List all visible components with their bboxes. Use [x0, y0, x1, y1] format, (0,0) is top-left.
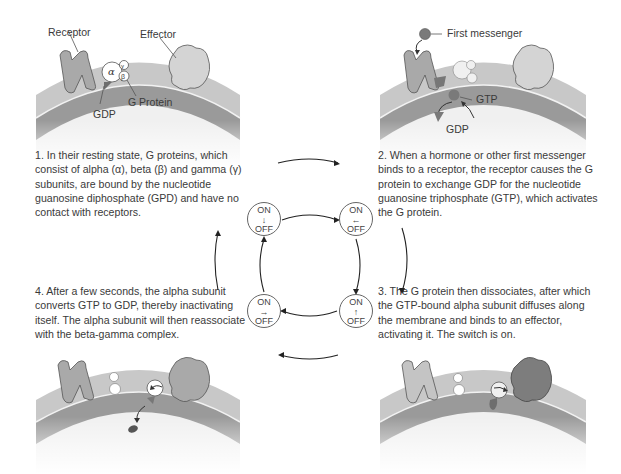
- switch-off-label: OFF: [248, 317, 280, 327]
- caption-step-4: 4. After a few seconds, the alpha subuni…: [35, 284, 250, 341]
- panel-1-resting-state: α γ β Receptor Effector G Protein GDP: [0, 0, 310, 170]
- gamma-label: γ: [121, 63, 124, 69]
- receptor-label: Receptor: [48, 26, 91, 38]
- panel-2-illustration: First messenger GTP GDP: [310, 0, 621, 170]
- effector-icon: [169, 357, 210, 401]
- switch-off-label: OFF: [340, 317, 372, 327]
- switch-off-label: OFF: [248, 225, 280, 235]
- panel-3-illustration: [310, 340, 621, 474]
- caption-step-2: 2. When a hormone or other first messeng…: [378, 148, 598, 219]
- switch-node-top-left: ON ↓ OFF: [247, 202, 281, 236]
- g-protein-label: G Protein: [128, 96, 173, 108]
- beta-label: β: [121, 73, 125, 81]
- gdp-label: GDP: [446, 123, 469, 135]
- effector-icon: [513, 45, 554, 90]
- effector-active-icon: [511, 357, 552, 401]
- switch-cycle: ON ↓ OFF ON ← OFF ON ↑ OFF ON → OFF: [250, 205, 370, 325]
- panel-1-illustration: α γ β Receptor Effector G Protein GDP: [0, 0, 310, 170]
- arrow-4-to-1: [215, 230, 221, 290]
- caption-step-1: 1. In their resting state, G proteins, w…: [35, 148, 245, 219]
- caption-step-3: 3. The G protein then dissociates, after…: [378, 284, 598, 341]
- gdp-label: GDP: [93, 108, 116, 120]
- gtp-marker: [449, 90, 460, 101]
- effector-label: Effector: [140, 28, 176, 40]
- switch-off-label: OFF: [340, 225, 372, 235]
- alpha-label: α: [108, 66, 115, 77]
- gtp-label: GTP: [476, 93, 498, 105]
- panel-4-inactivation: [0, 340, 310, 474]
- panel-2-activation: First messenger GTP GDP: [310, 0, 621, 170]
- switch-node-bottom-right: ON ↑ OFF: [339, 294, 373, 328]
- first-messenger-label: First messenger: [447, 27, 523, 39]
- switch-node-top-right: ON ← OFF: [339, 202, 373, 236]
- panel-4-illustration: [0, 340, 310, 474]
- panel-3-effector-activation: [310, 340, 621, 474]
- switch-node-bottom-left: ON → OFF: [247, 294, 281, 328]
